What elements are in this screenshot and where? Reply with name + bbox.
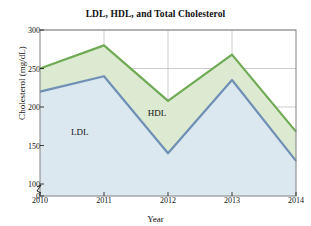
series-label-ldl: LDL [71, 127, 89, 137]
cholesterol-area-chart: LDL, HDL, and Total Cholesterol Choleste… [0, 0, 311, 226]
series-label-hdl: HDL [148, 108, 167, 118]
